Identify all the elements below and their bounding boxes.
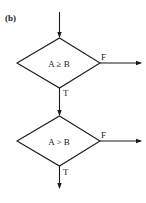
- true-edge-label-2: T: [63, 167, 69, 177]
- decision-1-label: A ≥ B: [48, 59, 69, 69]
- flowchart-diagram: (b) A ≥ B F T A > B F T: [0, 0, 146, 203]
- false-edge-label-2: F: [101, 130, 106, 140]
- true-edge-label-1: T: [63, 88, 69, 98]
- decision-2-label: A > B: [48, 137, 70, 147]
- panel-label: (b): [5, 13, 16, 23]
- false-edge-label-1: F: [101, 52, 106, 62]
